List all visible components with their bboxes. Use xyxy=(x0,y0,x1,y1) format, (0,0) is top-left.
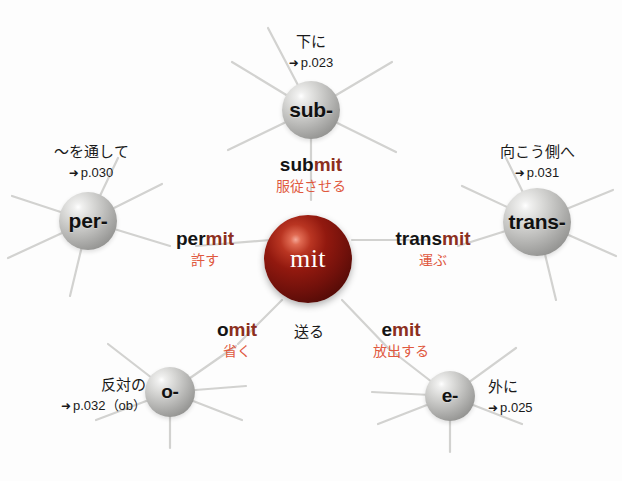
pageref-sub-value: p.023 xyxy=(301,55,334,70)
word-submit-en: submit xyxy=(256,153,366,177)
node-o-label: o- xyxy=(161,381,179,403)
pageref-per: ➜p.030 xyxy=(26,164,156,182)
diagram-canvas: 下に ➜p.023 sub- 〜を通して ➜p.030 per- 向こう側へ ➜… xyxy=(0,0,622,481)
word-permit-stem: mit xyxy=(206,228,235,249)
node-trans[interactable]: trans- xyxy=(503,188,571,256)
word-permit-en: permit xyxy=(157,227,253,251)
arrow-right-icon: ➜ xyxy=(289,56,301,70)
pageref-trans: ➜p.031 xyxy=(468,164,606,182)
word-submit-ja: 服従させる xyxy=(256,178,366,196)
word-omit-stem: mit xyxy=(229,319,258,340)
word-emit: emit 放出する xyxy=(358,318,444,360)
word-transmit-stem: mit xyxy=(442,228,471,249)
node-sub-label: sub- xyxy=(289,98,333,122)
core-meaning-ja: 送る xyxy=(286,323,332,342)
arrow-right-icon: ➜ xyxy=(61,399,73,413)
pageref-sub: ➜p.023 xyxy=(252,54,370,72)
node-sub[interactable]: sub- xyxy=(282,81,340,139)
word-transmit: transmit 運ぶ xyxy=(375,227,491,269)
annotation-sub: 下に ➜p.023 xyxy=(252,32,370,72)
node-e[interactable]: e- xyxy=(425,371,475,421)
arrow-right-icon: ➜ xyxy=(69,166,81,180)
word-permit-prefix: per xyxy=(176,228,206,249)
pageref-o-value: p.032（ob） xyxy=(73,398,146,413)
word-transmit-ja: 運ぶ xyxy=(375,252,491,270)
node-trans-label: trans- xyxy=(508,210,565,234)
node-o[interactable]: o- xyxy=(145,367,195,417)
word-emit-prefix: e xyxy=(381,319,392,340)
word-omit-prefix: o xyxy=(217,319,229,340)
pageref-e-value: p.025 xyxy=(500,400,533,415)
gloss-trans: 向こう側へ xyxy=(468,142,606,162)
word-transmit-en: transmit xyxy=(375,227,491,251)
pageref-per-value: p.030 xyxy=(81,165,114,180)
pageref-e: ➜p.025 xyxy=(488,399,588,417)
pageref-o: ➜p.032（ob） xyxy=(38,397,146,415)
core-meaning: 送る xyxy=(286,322,332,342)
word-permit: permit 許す xyxy=(157,227,253,269)
gloss-per: 〜を通して xyxy=(26,142,156,162)
word-submit-prefix: sub xyxy=(280,154,314,175)
word-transmit-prefix: trans xyxy=(396,228,442,249)
annotation-o: 反対の ➜p.032（ob） xyxy=(38,375,146,415)
pageref-trans-value: p.031 xyxy=(527,165,560,180)
node-per[interactable]: per- xyxy=(59,192,117,250)
word-emit-en: emit xyxy=(358,318,444,342)
node-per-label: per- xyxy=(69,209,108,233)
word-emit-ja: 放出する xyxy=(358,343,444,361)
gloss-o: 反対の xyxy=(38,375,146,395)
word-permit-ja: 許す xyxy=(157,252,253,270)
node-core-label: mit xyxy=(290,244,326,274)
word-submit-stem: mit xyxy=(314,154,343,175)
annotation-per: 〜を通して ➜p.030 xyxy=(26,142,156,182)
word-omit-ja: 省く xyxy=(198,343,276,361)
arrow-right-icon: ➜ xyxy=(515,166,527,180)
word-submit: submit 服従させる xyxy=(256,153,366,195)
node-e-label: e- xyxy=(442,385,459,407)
gloss-e: 外に xyxy=(488,377,588,397)
annotation-trans: 向こう側へ ➜p.031 xyxy=(468,142,606,182)
arrow-right-icon: ➜ xyxy=(488,401,500,415)
annotation-e: 外に ➜p.025 xyxy=(488,377,588,417)
word-omit-en: omit xyxy=(198,318,276,342)
word-emit-stem: mit xyxy=(392,319,421,340)
node-core-mit[interactable]: mit xyxy=(264,215,352,303)
gloss-sub: 下に xyxy=(252,32,370,52)
word-omit: omit 省く xyxy=(198,318,276,360)
